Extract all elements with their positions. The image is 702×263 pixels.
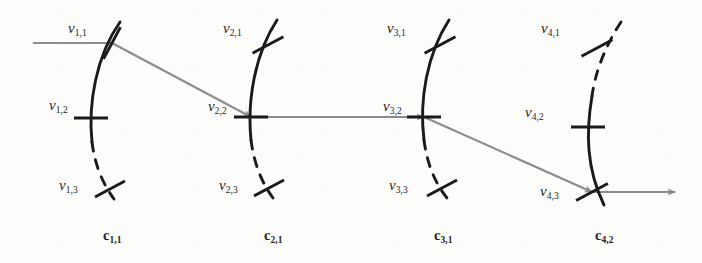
v-1-2-label-subscript: 1,2	[56, 105, 68, 115]
v-4-1-label-base: v	[541, 20, 548, 36]
connector-seg-3-4	[424, 117, 592, 192]
v-2-2-label-subscript: 2,2	[215, 106, 227, 116]
v-3-1-label-base: v	[387, 20, 394, 36]
v-4-3-label-base: v	[540, 183, 547, 199]
cluster-1-arc-solid	[91, 22, 120, 142]
cluster-4-label-subscript: 4,2	[601, 235, 613, 245]
diagram-svg	[0, 0, 702, 263]
cluster-1-label: c1,1	[103, 228, 122, 246]
v-1-1-label-base: v	[68, 20, 75, 36]
v-4-2-label-base: v	[525, 104, 532, 120]
v-2-3-label-base: v	[219, 177, 226, 193]
v-1-3-label: v1,3	[59, 178, 78, 196]
v-2-3-label: v2,3	[219, 178, 238, 196]
v-1-2-label: v1,2	[49, 98, 68, 116]
v-3-1-label-subscript: 3,1	[394, 28, 406, 38]
v-3-3-label-base: v	[389, 177, 396, 193]
v-2-1-label: v2,1	[223, 21, 242, 39]
v-3-3-label-subscript: 3,3	[396, 185, 408, 195]
v-3-3-label: v3,3	[389, 178, 408, 196]
connector-seg-1-2	[112, 43, 251, 117]
v-3-2-label-base: v	[383, 98, 390, 114]
v-2-1-label-base: v	[223, 20, 230, 36]
cluster-1-label-subscript: 1,1	[109, 235, 121, 245]
v-1-3-label-base: v	[59, 177, 66, 193]
cluster-2-arc-solid	[250, 20, 277, 140]
v-4-2-label-subscript: 4,2	[532, 112, 544, 122]
cluster-3-label: c3,1	[434, 228, 453, 246]
v-3-2-label-subscript: 3,2	[390, 106, 402, 116]
v-1-3-label-subscript: 1,3	[66, 185, 78, 195]
cluster-2-label: c2,1	[264, 228, 283, 246]
v-2-1-label-subscript: 2,1	[230, 28, 242, 38]
v-1-2-label-base: v	[49, 97, 56, 113]
v-4-3-label: v4,3	[540, 184, 559, 202]
connector-path-layer	[33, 43, 675, 192]
v-4-3-label-subscript: 4,3	[547, 191, 559, 201]
diagram-canvas: v1,1v1,2v1,3c1,1v2,1v2,2v2,3c2,1v3,1v3,2…	[0, 0, 702, 263]
v-4-1-tick	[582, 40, 613, 56]
v-2-2-label-base: v	[208, 98, 215, 114]
v-3-1-label: v3,1	[387, 21, 406, 39]
cluster-3-label-subscript: 3,1	[440, 235, 452, 245]
cluster-1-arc-dashed	[92, 142, 114, 199]
v-3-2-label: v3,2	[383, 99, 402, 117]
cluster-4-arc-dashed	[592, 22, 621, 96]
v-1-1-label-subscript: 1,1	[75, 28, 87, 38]
v-4-1-label: v4,1	[541, 21, 560, 39]
cluster-2-arc-dashed	[251, 140, 273, 198]
cluster-2-label-subscript: 2,1	[270, 235, 282, 245]
cluster-4-label: c4,2	[595, 228, 614, 246]
v-4-2-label: v4,2	[525, 105, 544, 123]
v-2-3-label-subscript: 2,3	[226, 185, 238, 195]
v-1-1-label: v1,1	[68, 21, 87, 39]
v-4-1-label-subscript: 4,1	[548, 28, 560, 38]
cluster-3-arc-dashed	[424, 140, 447, 198]
v-2-2-label: v2,2	[208, 99, 227, 117]
